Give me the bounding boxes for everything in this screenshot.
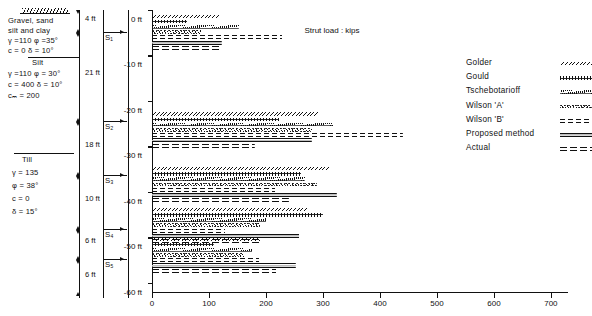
y-tick — [148, 10, 153, 11]
bar-s4-golder — [152, 208, 307, 211]
x-tick — [551, 293, 552, 298]
y-tick-label: -40 ft — [124, 197, 142, 206]
bar-s2-wilson-a — [152, 128, 312, 132]
bar-s4-tschebotarioff — [152, 218, 266, 221]
legend-label: Golder — [466, 58, 492, 67]
legend-label: Gould — [466, 72, 489, 81]
legend-item-gould: Gould — [466, 72, 592, 85]
y-tick-label: -50 ft — [124, 242, 142, 251]
y-tick — [148, 55, 153, 56]
legend-item-golder: Golder — [466, 58, 592, 71]
x-tick — [380, 293, 381, 298]
bar-s2-tschebotarioff — [152, 123, 333, 126]
x-tick-label: 300 — [316, 299, 329, 308]
figure-root: Gravel, sand silt and clay γ =110 φ =35°… — [0, 0, 592, 316]
bar-s2-proposed-method — [152, 138, 312, 142]
x-tick-label: 200 — [259, 299, 272, 308]
y-tick — [148, 283, 153, 284]
x-axis-ticks: 0100200300400500600700 — [152, 293, 572, 316]
bar-s5-actual — [152, 269, 276, 273]
x-tick-label: 100 — [202, 299, 215, 308]
legend-swatch — [560, 105, 592, 109]
y-tick-label: -10 ft — [124, 60, 142, 69]
y-tick — [148, 146, 153, 147]
bar-s1-tschebotarioff — [152, 25, 239, 28]
bar-s3-golder — [152, 167, 329, 170]
x-tick — [209, 293, 210, 298]
legend-label: Tschebotarioff — [466, 86, 520, 95]
bar-s3-proposed-method — [152, 193, 337, 197]
legend-swatch — [560, 62, 592, 65]
bar-s3-tschebotarioff — [152, 177, 305, 180]
y-tick — [148, 101, 153, 102]
legend-item-actual: Actual — [466, 143, 592, 156]
bar-s1-actual — [152, 46, 219, 50]
bar-s4-wilson-a — [152, 223, 260, 227]
legend-label: Actual — [466, 143, 490, 152]
y-tick-label: -30 ft — [124, 151, 142, 160]
x-tick — [266, 293, 267, 298]
bar-s5-gould — [152, 243, 214, 247]
y-tick-label: 0 ft — [131, 15, 142, 24]
bar-s1-wilson-a — [152, 30, 201, 34]
legend-swatch — [560, 147, 592, 151]
y-tick-label: -60 ft — [124, 288, 142, 297]
legend-item-wilson-b: Wilson 'B' — [466, 115, 592, 128]
legend-item-proposed-method: Proposed method — [466, 129, 592, 142]
bar-s1-wilson-b — [152, 35, 282, 39]
legend-label: Wilson 'A' — [466, 101, 504, 110]
legend-swatch — [560, 90, 592, 93]
bar-s3-actual — [152, 198, 289, 202]
legend-label: Wilson 'B' — [466, 115, 504, 124]
bar-s5-wilson-a — [152, 253, 244, 257]
x-tick-label: 600 — [487, 299, 500, 308]
bar-s1-gould — [152, 20, 187, 24]
x-tick-label: 400 — [373, 299, 386, 308]
legend-swatch — [560, 119, 592, 123]
y-tick — [148, 192, 153, 193]
legend-label: Proposed method — [466, 129, 534, 138]
x-tick — [437, 293, 438, 298]
legend-item-wilson-a: Wilson 'A' — [466, 101, 592, 114]
y-tick — [148, 237, 153, 238]
bar-s3-gould — [152, 172, 301, 176]
bar-s5-wilson-b — [152, 258, 259, 262]
x-tick-label: 0 — [150, 299, 154, 308]
bar-s4-gould — [152, 213, 323, 217]
legend-swatch — [560, 76, 592, 80]
bar-s2-actual — [152, 144, 255, 148]
bar-s4-wilson-b — [152, 229, 225, 233]
bar-s3-wilson-b — [152, 188, 275, 192]
x-tick-label: 700 — [544, 299, 557, 308]
x-tick-label: 500 — [430, 299, 443, 308]
bar-s2-gould — [152, 118, 279, 122]
x-tick — [323, 293, 324, 298]
bar-s1-proposed-method — [152, 41, 222, 45]
y-axis-labels: 0 ft-10 ft-20 ft-30 ft-40 ft-50 ft-60 ft — [0, 10, 146, 300]
bar-s5-proposed-method — [152, 263, 296, 267]
legend-item-tschebotarioff: Tschebotarioff — [466, 86, 592, 99]
x-axis-title: Strut load : kips — [304, 26, 359, 35]
x-tick — [152, 293, 153, 298]
bar-s1-golder — [152, 15, 219, 18]
bar-s2-wilson-b — [152, 133, 403, 137]
bar-s3-wilson-a — [152, 183, 317, 187]
bar-s5-golder — [152, 237, 260, 240]
bar-s2-golder — [152, 112, 318, 115]
legend: GolderGouldTschebotarioffWilson 'A'Wilso… — [466, 58, 592, 158]
legend-swatch — [560, 133, 592, 137]
x-tick — [494, 293, 495, 298]
y-tick-label: -20 ft — [124, 106, 142, 115]
bar-s5-tschebotarioff — [152, 248, 252, 251]
